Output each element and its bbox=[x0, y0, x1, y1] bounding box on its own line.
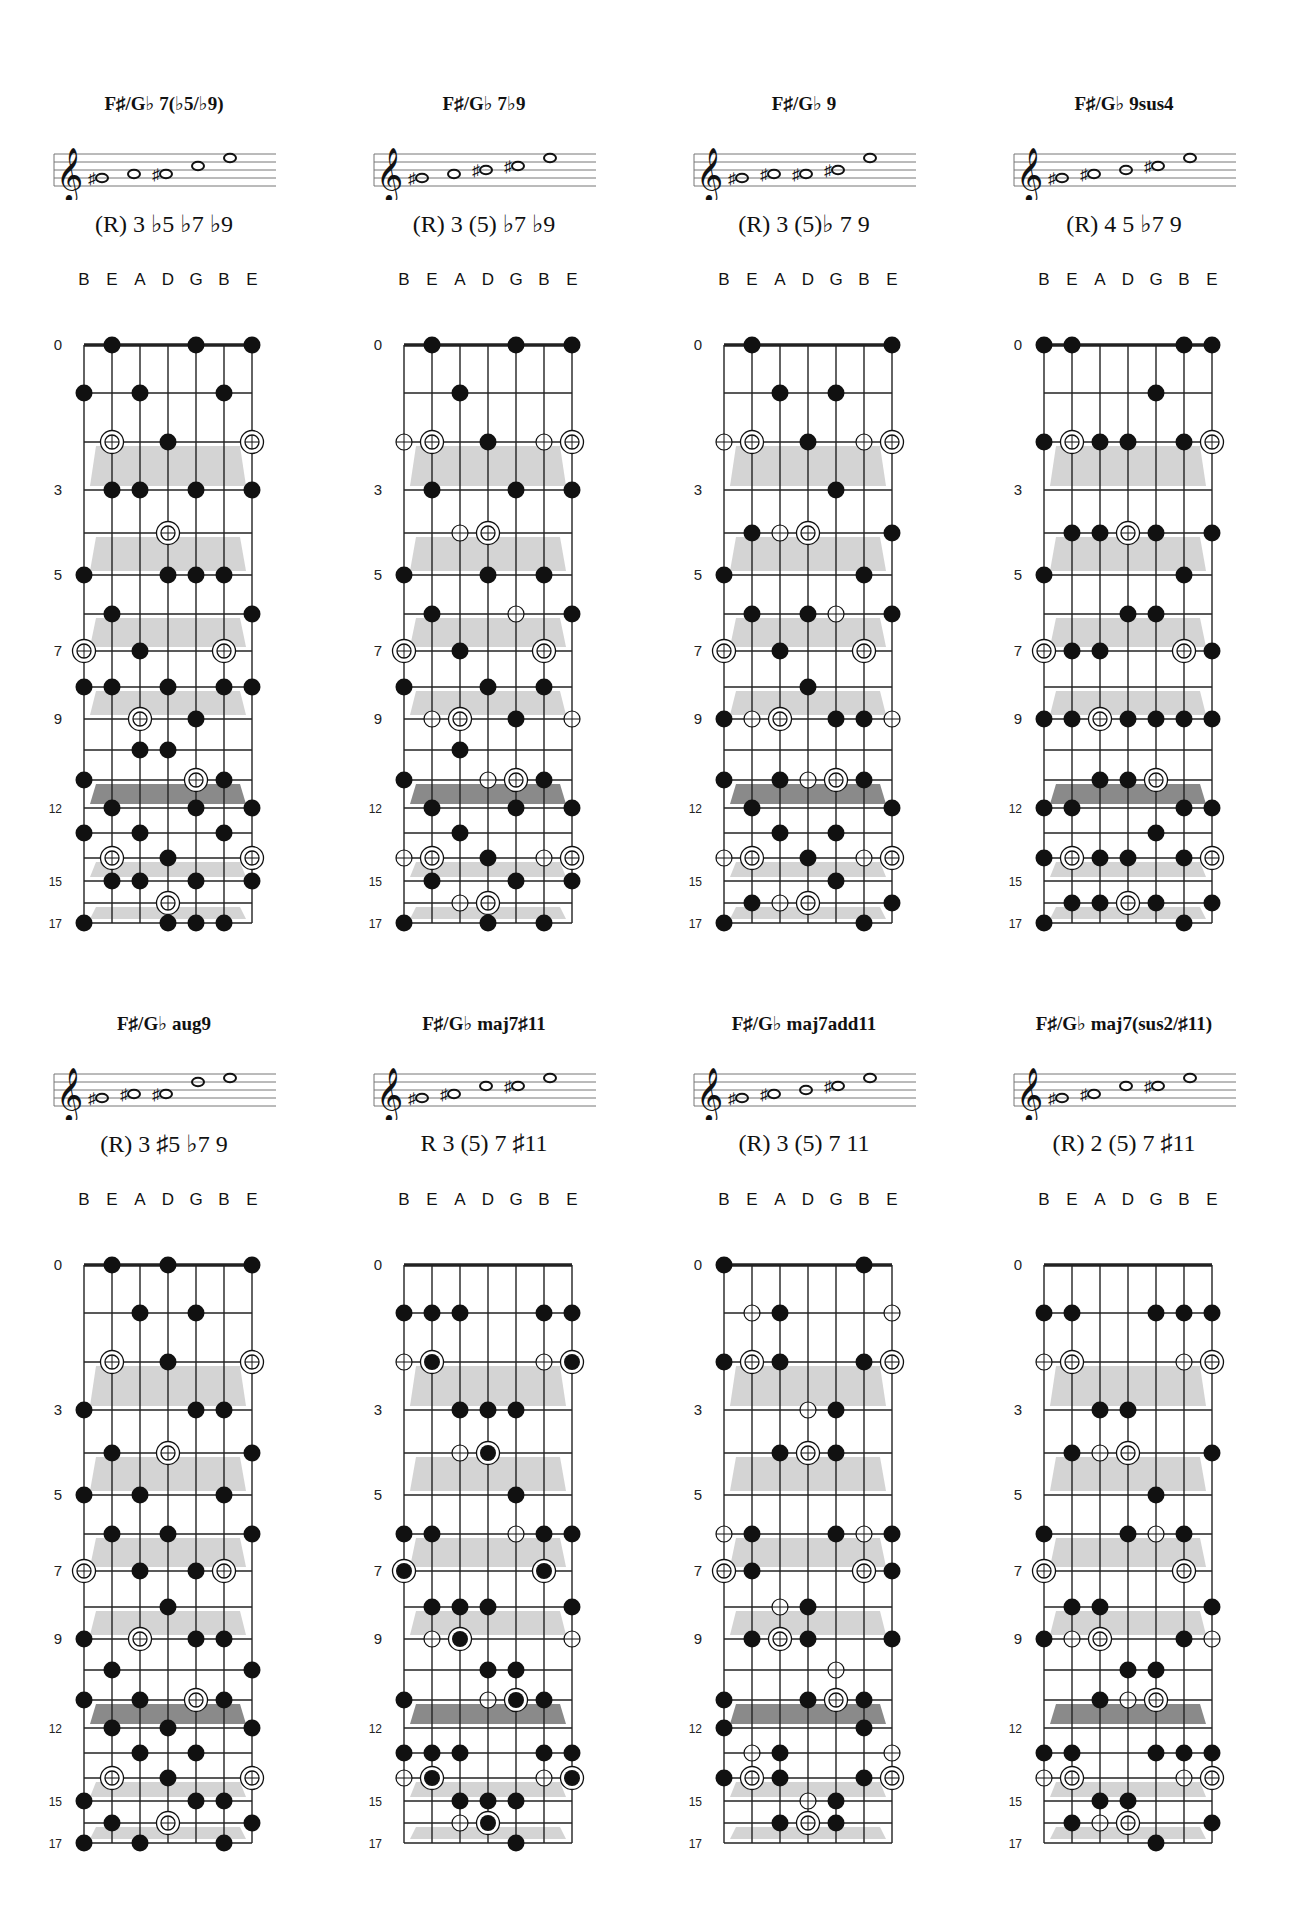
note-marker bbox=[1148, 385, 1165, 402]
string-name: E bbox=[106, 1190, 117, 1210]
note-marker bbox=[1092, 895, 1109, 912]
root-note-marker bbox=[421, 1767, 444, 1790]
note-marker bbox=[716, 1770, 733, 1787]
note-marker bbox=[856, 711, 873, 728]
note-marker bbox=[132, 1835, 149, 1852]
note-marker bbox=[160, 567, 177, 584]
string-name: E bbox=[566, 270, 577, 290]
fret-number: 12 bbox=[1009, 802, 1023, 816]
fret-number: 0 bbox=[54, 1256, 62, 1273]
note-marker bbox=[396, 567, 413, 584]
note-marker bbox=[1120, 606, 1137, 623]
note-marker bbox=[424, 482, 441, 499]
optional-note-marker bbox=[1176, 1770, 1192, 1786]
note-marker bbox=[1148, 711, 1165, 728]
fret-number: 5 bbox=[374, 566, 382, 583]
svg-text:♯: ♯ bbox=[152, 1086, 160, 1103]
note-marker bbox=[132, 482, 149, 499]
note-marker bbox=[76, 825, 93, 842]
fret-number: 9 bbox=[374, 710, 382, 727]
note-marker bbox=[244, 1257, 261, 1274]
optional-note-marker bbox=[536, 850, 552, 866]
root-note-marker bbox=[1201, 847, 1224, 870]
fret-number: 15 bbox=[49, 875, 63, 889]
root-note-marker bbox=[853, 640, 876, 663]
optional-note-marker bbox=[1176, 1354, 1192, 1370]
note-marker bbox=[1204, 1445, 1221, 1462]
note-marker bbox=[216, 1487, 233, 1504]
string-name: E bbox=[1206, 270, 1217, 290]
root-note-marker bbox=[421, 431, 444, 454]
fret-number: 3 bbox=[1014, 1401, 1022, 1418]
note-marker bbox=[452, 385, 469, 402]
music-staff: 𝄞♯♯♯ bbox=[370, 140, 600, 200]
fret-number: 9 bbox=[694, 710, 702, 727]
note-marker bbox=[1064, 1599, 1081, 1616]
string-name: A bbox=[134, 270, 145, 290]
note-marker bbox=[132, 1305, 149, 1322]
svg-text:♯: ♯ bbox=[824, 1078, 832, 1095]
root-note-marker bbox=[1033, 1560, 1056, 1583]
note-marker bbox=[1148, 825, 1165, 842]
note-marker bbox=[216, 1835, 233, 1852]
music-staff: 𝄞♯♯♯ bbox=[1010, 1060, 1240, 1120]
note-marker bbox=[772, 643, 789, 660]
fret-number: 0 bbox=[54, 336, 62, 353]
chord-formula: (R) 3 ♯5 ♭7 9 bbox=[14, 1130, 314, 1158]
note-marker bbox=[104, 1445, 121, 1462]
note-marker bbox=[104, 337, 121, 354]
fret-number: 9 bbox=[694, 1630, 702, 1647]
note-marker bbox=[536, 679, 553, 696]
note-marker bbox=[216, 915, 233, 932]
note-marker bbox=[1120, 434, 1137, 451]
note-marker bbox=[396, 679, 413, 696]
note-marker bbox=[828, 825, 845, 842]
string-name: B bbox=[858, 270, 869, 290]
note-marker bbox=[536, 1526, 553, 1543]
note-marker bbox=[884, 800, 901, 817]
note-marker bbox=[1148, 1487, 1165, 1504]
note-marker bbox=[1036, 850, 1053, 867]
music-staff: 𝄞♯♯♯ bbox=[690, 1060, 920, 1120]
note-marker bbox=[480, 567, 497, 584]
note-marker bbox=[396, 1745, 413, 1762]
svg-text:♯: ♯ bbox=[824, 162, 832, 179]
string-name: E bbox=[1066, 270, 1077, 290]
root-note-marker bbox=[129, 708, 152, 731]
note-marker bbox=[716, 1720, 733, 1737]
note-marker bbox=[188, 711, 205, 728]
optional-note-marker bbox=[828, 1662, 844, 1678]
note-marker bbox=[1176, 915, 1193, 932]
string-name: B bbox=[718, 270, 729, 290]
fret-number: 0 bbox=[694, 336, 702, 353]
note-marker bbox=[1204, 1599, 1221, 1616]
root-note-marker bbox=[101, 431, 124, 454]
note-marker bbox=[1204, 525, 1221, 542]
note-marker bbox=[856, 915, 873, 932]
fret-number: 3 bbox=[374, 481, 382, 498]
note-marker bbox=[76, 1793, 93, 1810]
note-marker bbox=[480, 434, 497, 451]
note-marker bbox=[188, 915, 205, 932]
fret-number: 15 bbox=[1009, 1795, 1023, 1809]
fret-number: 9 bbox=[54, 710, 62, 727]
fret-number: 12 bbox=[49, 1722, 63, 1736]
fret-number: 0 bbox=[1014, 1256, 1022, 1273]
root-note-marker bbox=[797, 892, 820, 915]
string-name: B bbox=[1178, 270, 1189, 290]
fret-number: 15 bbox=[1009, 875, 1023, 889]
note-marker bbox=[244, 873, 261, 890]
note-marker bbox=[188, 1631, 205, 1648]
string-name: A bbox=[774, 1190, 785, 1210]
root-note-marker bbox=[1117, 892, 1140, 915]
fret-number: 17 bbox=[369, 917, 383, 931]
music-staff: 𝄞♯♯♯ bbox=[370, 1060, 600, 1120]
fret-number: 3 bbox=[54, 481, 62, 498]
root-note-marker bbox=[241, 1351, 264, 1374]
note-marker bbox=[244, 800, 261, 817]
note-marker bbox=[424, 800, 441, 817]
root-note-marker bbox=[101, 847, 124, 870]
root-note-marker bbox=[561, 431, 584, 454]
note-marker bbox=[1092, 1793, 1109, 1810]
note-marker bbox=[160, 1354, 177, 1371]
